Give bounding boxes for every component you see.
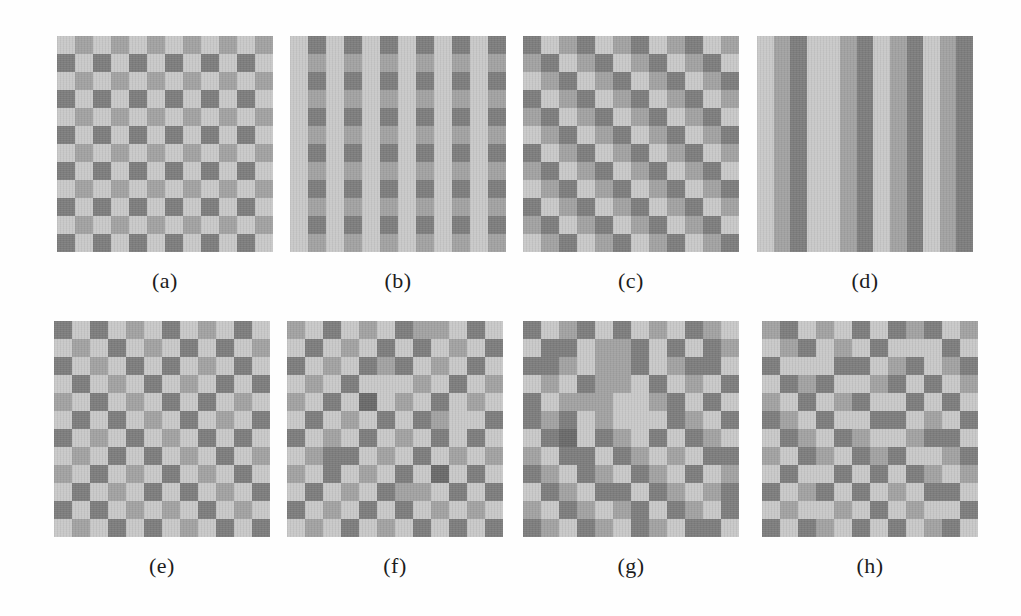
texture-cell: [857, 54, 874, 72]
texture-cell: [923, 216, 940, 234]
texture-cell: [940, 90, 957, 108]
texture-cell: [413, 321, 431, 339]
texture-cell: [807, 180, 824, 198]
texture-cell: [72, 321, 90, 339]
texture-cell: [541, 108, 559, 126]
texture-cell: [940, 198, 957, 216]
texture-cell: [398, 126, 416, 144]
texture-panel-d: (d): [757, 36, 973, 294]
texture-cell: [541, 465, 559, 483]
texture-cell: [685, 108, 703, 126]
texture-cell: [577, 72, 595, 90]
texture-cell: [613, 198, 631, 216]
texture-cell: [906, 501, 924, 519]
texture-cell: [667, 180, 685, 198]
texture-cell: [703, 339, 721, 357]
texture-cell: [308, 108, 326, 126]
texture-cell: [219, 54, 237, 72]
texture-cell: [234, 411, 252, 429]
texture-cell: [488, 54, 506, 72]
texture-cell: [816, 357, 834, 375]
texture-cell: [852, 411, 870, 429]
texture-cell: [488, 108, 506, 126]
texture-cell: [840, 36, 857, 54]
texture-cell: [129, 234, 147, 252]
texture-cell: [434, 180, 452, 198]
texture-cell: [72, 429, 90, 447]
texture-cell: [362, 216, 380, 234]
texture-cell: [924, 483, 942, 501]
texture-cell: [541, 126, 559, 144]
texture-cell: [823, 180, 840, 198]
texture-cell: [834, 357, 852, 375]
texture-cell: [667, 216, 685, 234]
texture-cell: [956, 108, 973, 126]
panel-label-h: (h): [762, 553, 978, 579]
texture-cell: [434, 72, 452, 90]
texture-cell: [523, 234, 541, 252]
texture-cell: [873, 72, 890, 90]
texture-cell: [907, 198, 924, 216]
texture-cell: [613, 126, 631, 144]
texture-cell: [890, 72, 907, 90]
texture-cell: [252, 411, 270, 429]
texture-cell: [434, 162, 452, 180]
texture-cell: [757, 144, 774, 162]
texture-cell: [380, 108, 398, 126]
texture-cell: [613, 180, 631, 198]
texture-cell: [344, 144, 362, 162]
texture-cell: [398, 180, 416, 198]
texture-cell: [108, 339, 126, 357]
texture-cell: [90, 519, 108, 537]
texture-cell: [108, 321, 126, 339]
texture-cell: [449, 321, 467, 339]
texture-cell: [252, 357, 270, 375]
texture-cell: [541, 519, 559, 537]
texture-cell: [449, 339, 467, 357]
texture-cell: [906, 393, 924, 411]
texture-cell: [559, 180, 577, 198]
texture-cell: [577, 126, 595, 144]
texture-cell: [631, 180, 649, 198]
texture-cell: [757, 36, 774, 54]
texture-cell: [434, 108, 452, 126]
texture-cell: [798, 321, 816, 339]
texture-cell: [823, 108, 840, 126]
panel-label-c: (c): [523, 268, 739, 294]
texture-cell: [523, 162, 541, 180]
texture-grid-e: [54, 321, 270, 537]
texture-cell: [541, 234, 559, 252]
texture-cell: [111, 162, 129, 180]
texture-cell: [237, 162, 255, 180]
texture-cell: [857, 72, 874, 90]
texture-cell: [201, 234, 219, 252]
texture-cell: [434, 126, 452, 144]
texture-cell: [816, 393, 834, 411]
texture-cell: [290, 162, 308, 180]
texture-cell: [359, 393, 377, 411]
texture-cell: [108, 411, 126, 429]
texture-cell: [413, 429, 431, 447]
texture-cell: [305, 321, 323, 339]
texture-cell: [523, 180, 541, 198]
texture-cell: [721, 483, 739, 501]
texture-cell: [721, 144, 739, 162]
texture-cell: [326, 144, 344, 162]
texture-cell: [201, 36, 219, 54]
texture-cell: [890, 54, 907, 72]
texture-cell: [807, 90, 824, 108]
texture-cell: [72, 393, 90, 411]
texture-cell: [290, 90, 308, 108]
texture-cell: [667, 36, 685, 54]
texture-cell: [126, 519, 144, 537]
texture-cell: [252, 447, 270, 465]
texture-cell: [890, 108, 907, 126]
texture-grid-b: [290, 36, 506, 252]
texture-cell: [237, 90, 255, 108]
texture-cell: [467, 411, 485, 429]
texture-cell: [290, 54, 308, 72]
texture-cell: [54, 375, 72, 393]
texture-cell: [93, 90, 111, 108]
texture-cell: [416, 54, 434, 72]
texture-cell: [57, 216, 75, 234]
